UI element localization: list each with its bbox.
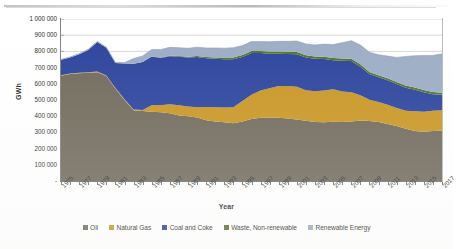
x-axis-tick-label: 2017	[441, 174, 456, 189]
x-axis-tick-mark	[106, 182, 107, 185]
x-axis-tick-mark	[206, 182, 207, 185]
x-axis-tick-mark	[342, 182, 343, 185]
x-axis-tick-mark	[397, 182, 398, 185]
x-axis-tick-mark	[134, 182, 135, 185]
legend-item[interactable]: Waste, Non-renewable	[224, 224, 297, 231]
x-axis-tick-mark	[279, 182, 280, 185]
y-axis-tick-label: 600 000	[6, 80, 57, 87]
x-axis-tick-mark	[388, 182, 389, 185]
x-axis-tick-mark	[88, 182, 89, 185]
legend-label: Oil	[90, 224, 98, 231]
x-axis-tick-mark	[61, 182, 62, 185]
x-axis-tick-mark	[152, 182, 153, 185]
legend-label: Renewable Energy	[315, 224, 370, 231]
legend-swatch-icon	[109, 225, 114, 230]
x-axis-tick-mark	[233, 182, 234, 185]
legend-item[interactable]: Natural Gas	[109, 224, 151, 231]
x-axis-tick-mark	[442, 182, 443, 185]
x-axis-tick-mark	[297, 182, 298, 185]
x-axis-tick-mark	[79, 182, 80, 185]
x-axis-tick-mark	[415, 182, 416, 185]
x-axis-tick-mark	[197, 182, 198, 185]
y-axis-tick-label: 400 000	[6, 112, 57, 119]
x-axis-tick-mark	[424, 182, 425, 185]
legend-swatch-icon	[224, 225, 229, 230]
legend-item[interactable]: Oil	[83, 224, 98, 231]
y-axis-tick-label: 100 000	[6, 161, 57, 168]
y-axis-tick-label: 500 000	[6, 96, 57, 103]
x-axis-tick-mark	[179, 182, 180, 185]
x-axis-title: Year	[0, 203, 453, 210]
x-axis-tick-mark	[433, 182, 434, 185]
legend-label: Waste, Non-renewable	[231, 224, 297, 231]
x-axis-tick-mark	[406, 182, 407, 185]
y-axis-tick-label: 900 000	[6, 31, 57, 38]
x-axis-tick-mark	[188, 182, 189, 185]
plot-right-border	[442, 18, 443, 182]
chart-legend: OilNatural GasCoal and CokeWaste, Non-re…	[0, 224, 453, 231]
legend-label: Natural Gas	[117, 224, 152, 231]
legend-swatch-icon	[308, 225, 313, 230]
legend-label: Coal and Coke	[170, 224, 213, 231]
y-axis-tick-label: 1 000 000	[6, 15, 57, 22]
stacked-area-svg	[61, 19, 442, 181]
x-axis-tick-mark	[261, 182, 262, 185]
x-axis-tick-mark	[351, 182, 352, 185]
y-axis-tick-label: 300 000	[6, 128, 57, 135]
x-axis-tick-mark	[306, 182, 307, 185]
x-axis-tick-mark	[161, 182, 162, 185]
x-axis-tick-mark	[170, 182, 171, 185]
x-axis-tick-mark	[97, 182, 98, 185]
x-axis-tick-mark	[270, 182, 271, 185]
y-axis-tick-label: -	[6, 177, 57, 184]
x-axis-tick-mark	[242, 182, 243, 185]
x-axis-tick-mark	[70, 182, 71, 185]
scan-artifact-line-secondary	[6, 7, 436, 8]
x-axis-tick-mark	[143, 182, 144, 185]
x-axis-tick-labels: 1975197719791981198319851987198919911993…	[61, 182, 442, 204]
x-axis-tick-mark	[360, 182, 361, 185]
legend-item[interactable]: Renewable Energy	[308, 224, 370, 231]
y-axis-tick-label: 200 000	[6, 145, 57, 152]
x-axis-tick-mark	[333, 182, 334, 185]
x-axis-tick-mark	[288, 182, 289, 185]
x-axis-tick-mark	[252, 182, 253, 185]
plot-area	[61, 19, 442, 181]
x-axis-tick-mark	[379, 182, 380, 185]
x-axis-tick-mark	[369, 182, 370, 185]
x-axis-tick-mark	[125, 182, 126, 185]
legend-swatch-icon	[83, 225, 88, 230]
x-axis-tick-mark	[215, 182, 216, 185]
y-axis-tick-label: 800 000	[6, 47, 57, 54]
legend-item[interactable]: Coal and Coke	[162, 224, 212, 231]
y-axis-tick-labels: 1 000 000900 000800 000700 000600 000500…	[6, 0, 57, 249]
y-axis-tick-label: 700 000	[6, 64, 57, 71]
x-axis-tick-mark	[324, 182, 325, 185]
x-axis-tick-mark	[115, 182, 116, 185]
x-axis-tick-mark	[315, 182, 316, 185]
legend-swatch-icon	[162, 225, 167, 230]
x-axis-tick-mark	[224, 182, 225, 185]
